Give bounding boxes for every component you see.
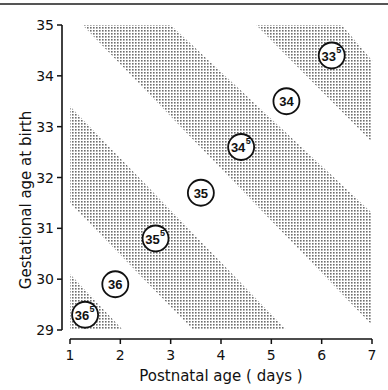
y-tick-label: 34	[36, 68, 54, 84]
marker-label: 35	[145, 232, 159, 247]
age-marker: 35	[188, 180, 214, 206]
x-tick-label: 6	[317, 347, 326, 363]
marker-superscript: 5	[160, 228, 165, 238]
marker-superscript: 5	[246, 136, 251, 146]
x-tick-label: 5	[267, 347, 276, 363]
marker-label: 36	[108, 277, 122, 292]
x-tick-label: 4	[217, 347, 226, 363]
chart: 29303132333435 1234567 33534345353553636…	[0, 0, 388, 390]
x-tick-label: 1	[66, 347, 75, 363]
marker-superscript: 5	[336, 45, 341, 55]
x-tick-label: 7	[368, 347, 377, 363]
y-tick-label: 35	[36, 17, 54, 33]
marker-label: 34	[231, 140, 246, 155]
y-tick-label: 30	[36, 271, 54, 287]
y-tick-label: 33	[36, 119, 54, 135]
y-tick-label: 32	[36, 170, 54, 186]
age-marker: 345	[228, 134, 254, 160]
age-marker: 36	[102, 271, 128, 297]
y-tick-label: 29	[36, 322, 54, 338]
marker-label: 36	[75, 308, 89, 323]
y-tick-label: 31	[36, 220, 54, 236]
marker-label: 33	[321, 49, 335, 64]
age-marker: 355	[143, 226, 169, 252]
marker-superscript: 5	[90, 304, 95, 314]
x-axis: 1234567	[66, 339, 377, 363]
x-tick-label: 2	[116, 347, 125, 363]
marker-label: 35	[194, 186, 208, 201]
age-marker: 365	[72, 302, 98, 328]
marker-label: 34	[279, 94, 294, 109]
age-marker: 335	[319, 43, 345, 69]
y-axis-title: Gestational age at birth	[17, 111, 35, 289]
x-axis-title: Postnatal age ( days )	[139, 367, 302, 385]
x-tick-label: 3	[166, 347, 175, 363]
age-marker: 34	[273, 88, 299, 114]
y-axis: 29303132333435	[36, 17, 62, 338]
